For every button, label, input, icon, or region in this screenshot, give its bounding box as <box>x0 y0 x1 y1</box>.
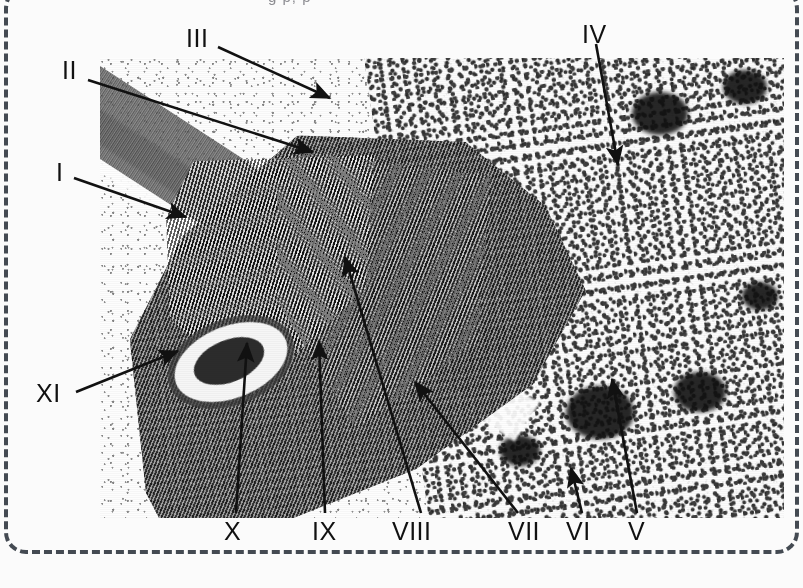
label-ix: IX <box>312 519 337 544</box>
label-x: X <box>224 519 241 544</box>
label-viii: VIII <box>392 519 432 544</box>
label-iv: IV <box>582 22 607 47</box>
label-i: I <box>56 160 63 185</box>
label-v: V <box>628 519 645 544</box>
film-grain-overlay <box>100 58 784 518</box>
label-vi: VI <box>566 519 591 544</box>
label-ii: II <box>62 58 77 83</box>
label-vii: VII <box>508 519 540 544</box>
label-xi: XI <box>36 381 61 406</box>
top-caption: g p, p <box>268 0 312 5</box>
figure-stage: g p, p IIIIVIIIXIXIXVIIIVIIVIV <box>0 0 803 588</box>
label-iii: III <box>186 26 208 51</box>
electron-micrograph-image <box>100 58 784 518</box>
